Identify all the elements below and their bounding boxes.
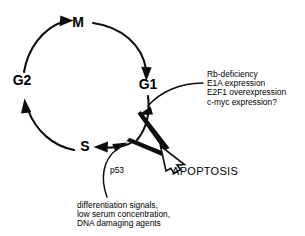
arrowhead-into-g2 xyxy=(21,99,31,114)
phase-label-g1: G1 xyxy=(139,76,158,92)
p53-label: p53 xyxy=(110,165,124,175)
diagram-canvas: M G1 S G2 p53 APOPTOSIS Rb-deficiency E1… xyxy=(0,0,305,236)
stress-signal-line-3: DNA damaging agents xyxy=(77,218,161,228)
phase-label-s: S xyxy=(80,138,89,154)
arc-g2-to-m xyxy=(24,16,74,72)
arc-m-to-g1 xyxy=(93,23,152,81)
apoptosis-label: APOPTOSIS xyxy=(172,165,238,177)
oncogenic-signal-line-4: c-myc expression? xyxy=(207,97,277,107)
phase-label-g2: G2 xyxy=(13,72,32,88)
arc-s-to-g2 xyxy=(21,99,74,151)
stress-signals-textblock: differentiation signals, low serum conce… xyxy=(77,200,170,228)
cell-cycle-diagram: M G1 S G2 p53 APOPTOSIS Rb-deficiency E1… xyxy=(0,0,305,236)
arrowhead-into-s xyxy=(94,142,109,153)
phase-label-m: M xyxy=(72,14,84,30)
oncogenic-signals-textblock: Rb-deficiency E1A expression E2F1 overex… xyxy=(207,69,286,107)
